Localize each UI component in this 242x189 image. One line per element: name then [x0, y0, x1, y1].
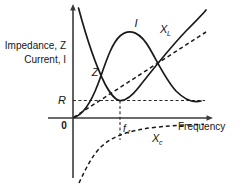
resistance-label: R — [58, 94, 66, 106]
y-axis-label-text2: Current, I — [24, 54, 66, 65]
figure-container: Impedance, Z Current, I Frequency 0 R f … — [0, 0, 242, 189]
xl-curve-label: X L — [159, 23, 171, 37]
resonant-frequency-subscript: r — [128, 128, 131, 135]
x-axis-arrow-icon — [207, 115, 214, 120]
origin-label: 0 — [61, 120, 67, 131]
xc-curve-label: X c — [151, 132, 163, 146]
resonance-curve-figure: Impedance, Z Current, I Frequency 0 R f … — [0, 0, 242, 189]
xl-subscript: L — [167, 30, 171, 37]
i-curve-label: I — [134, 17, 137, 29]
axes-group — [48, 4, 213, 178]
y-axis-label-line1: Impedance, Z — [5, 40, 66, 51]
curve-capacitive-reactance — [79, 124, 204, 183]
y-axis-arrow-icon — [70, 4, 76, 11]
xc-subscript: c — [159, 139, 163, 146]
y-axis-label-line2: Current, I — [24, 54, 66, 65]
y-axis-label-text1: Impedance, Z — [5, 40, 66, 51]
z-curve-label: Z — [91, 66, 100, 78]
labels-group: Impedance, Z Current, I Frequency 0 R f … — [5, 17, 225, 146]
x-axis-label: Frequency — [178, 121, 225, 132]
xc-path — [79, 124, 204, 183]
